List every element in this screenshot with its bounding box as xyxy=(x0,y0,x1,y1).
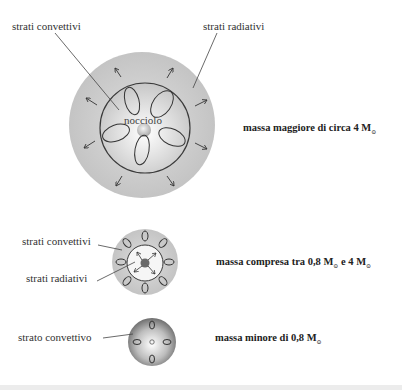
caption-small-mass: massa minore di 0,8 M⊙ xyxy=(215,332,322,345)
small-star xyxy=(103,318,176,366)
label-core: nocciolo xyxy=(124,114,162,126)
label-radiative-layers: strati radiativi xyxy=(203,20,264,32)
label-convective-layers: strati convettivi xyxy=(22,235,91,247)
label-radiative-layers: strati radiativi xyxy=(26,272,87,284)
caption-text: e 4 M xyxy=(338,256,366,267)
label-convective-layer: strato convettivo xyxy=(18,331,92,343)
label-convective-layers: strati convettivi xyxy=(12,20,81,32)
medium-star xyxy=(97,229,178,295)
caption-large-mass: massa maggiore di circa 4 M⊙ xyxy=(243,122,376,135)
sun-symbol: ⊙ xyxy=(366,263,371,269)
caption-text: massa maggiore di circa 4 M xyxy=(243,122,371,133)
sun-symbol: ⊙ xyxy=(371,129,376,135)
caption-text: massa compresa tra 0,8 M xyxy=(216,256,333,267)
caption-medium-mass: massa compresa tra 0,8 M⊙ e 4 M⊙ xyxy=(216,256,371,269)
sun-symbol: ⊙ xyxy=(317,339,322,345)
fully-convective-star xyxy=(128,318,176,366)
bottom-band xyxy=(0,385,402,390)
leader-line-radiative xyxy=(193,33,217,88)
caption-text: massa minore di 0,8 M xyxy=(215,332,317,343)
